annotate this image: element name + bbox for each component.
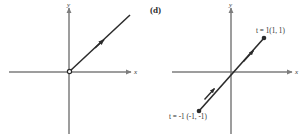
right-direction-arrow-lower [205, 89, 215, 100]
left-ray-direction-arrow [95, 40, 104, 48]
right-endpoint-positive-marker [262, 36, 267, 41]
figure-container: (d) x y x y t = 1(1, 1) t = -1 (-1, -1) [0, 0, 307, 138]
annotation-t-negative: t = -1 (-1, -1) [169, 113, 207, 121]
left-y-axis-label: y [67, 1, 70, 9]
left-x-axis-label: x [134, 68, 137, 76]
left-origin-open-circle [67, 69, 71, 73]
annotation-t-positive: t = 1(1, 1) [256, 27, 285, 35]
panel-label-d: (d) [150, 5, 161, 15]
figure-graphics [0, 0, 307, 138]
right-x-axis-label: x [295, 68, 298, 76]
right-y-axis-label: y [229, 1, 232, 9]
right-direction-arrow-upper [244, 51, 254, 62]
left-panel [9, 8, 131, 134]
